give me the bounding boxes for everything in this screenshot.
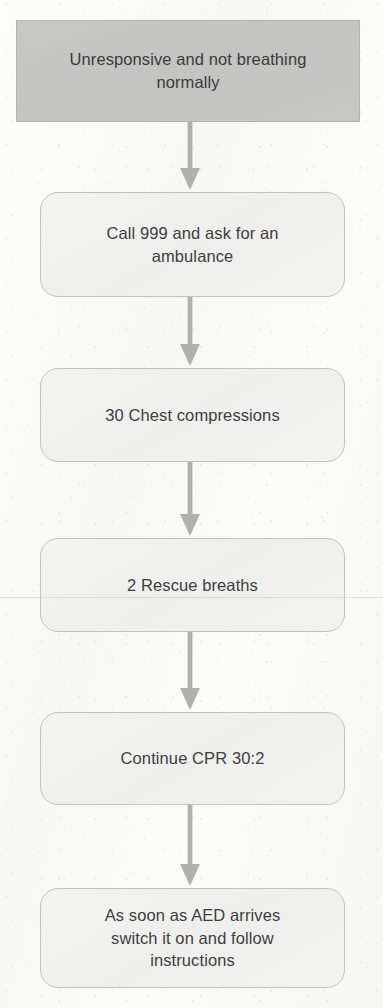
flow-node-continue-cpr: Continue CPR 30:2 (40, 712, 345, 805)
flow-node-label: 2 Rescue breaths (127, 574, 258, 597)
flow-arrow-2 (176, 297, 204, 368)
flow-node-label: Unresponsive and not breathing normally (70, 48, 307, 94)
flow-node-rescue-breaths: 2 Rescue breaths (40, 538, 345, 632)
flow-arrow-5 (176, 805, 204, 888)
flow-arrow-1 (176, 122, 204, 192)
flow-node-label: As soon as AED arrives switch it on and … (105, 904, 281, 972)
flow-node-call-999: Call 999 and ask for an ambulance (40, 192, 345, 297)
flow-arrow-4 (176, 632, 204, 712)
flow-node-label: Continue CPR 30:2 (121, 747, 265, 770)
flow-arrow-3 (176, 462, 204, 538)
flow-node-aed: As soon as AED arrives switch it on and … (40, 888, 345, 988)
flow-node-label: Call 999 and ask for an ambulance (107, 222, 279, 268)
flow-node-label: 30 Chest compressions (105, 404, 280, 427)
flow-node-chest-compressions: 30 Chest compressions (40, 368, 345, 462)
flow-node-unresponsive: Unresponsive and not breathing normally (16, 20, 360, 122)
flowchart-page: Unresponsive and not breathing normally … (0, 0, 383, 1008)
